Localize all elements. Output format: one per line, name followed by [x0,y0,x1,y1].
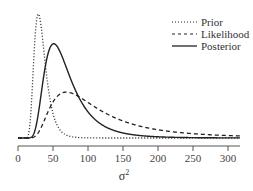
legend: Prior Likelihood Posterior [172,16,250,52]
x-tick-label: 300 [220,152,237,164]
likelihood-curve [18,92,240,138]
x-tick-label: 150 [115,152,132,164]
x-tick-label: 100 [80,152,97,164]
x-tick-label: 0 [15,152,21,164]
x-axis-title: σ2 [119,168,129,183]
legend-item-prior: Prior [172,16,223,28]
legend-label: Likelihood [201,28,250,40]
x-tick-label: 250 [185,152,202,164]
x-tick-label: 50 [48,152,60,164]
posterior-curve [18,44,240,138]
x-tick-label: 200 [150,152,167,164]
x-axis: 050100150200250300 σ2 [15,146,240,183]
posterior-density-chart: 050100150200250300 σ2 Prior Likelihood P… [0,0,253,191]
legend-item-posterior: Posterior [172,40,241,52]
legend-item-likelihood: Likelihood [172,28,250,40]
legend-label: Prior [201,16,223,28]
legend-label: Posterior [201,40,241,52]
